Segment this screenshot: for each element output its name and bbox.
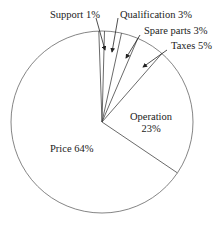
label-operation-name: Operation <box>128 111 174 123</box>
label-operation: Operation 23% <box>128 111 174 135</box>
label-taxes: Taxes 5% <box>171 40 212 52</box>
label-price: Price 64% <box>50 143 93 155</box>
label-spare-parts: Spare parts 3% <box>144 25 208 37</box>
label-qualification: Qualification 3% <box>120 9 192 21</box>
label-support: Support 1% <box>50 9 100 21</box>
label-operation-value: 23% <box>128 123 174 135</box>
